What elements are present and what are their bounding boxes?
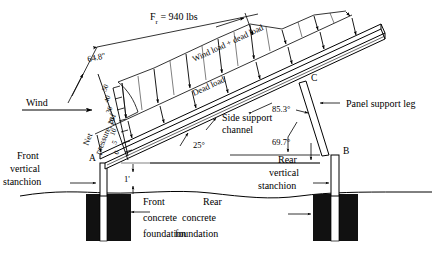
- stanchion-height-label: 1': [124, 174, 130, 184]
- side-support-channel-label-line2: channel: [222, 124, 253, 135]
- front-stanchion-label-line2: vertical: [10, 163, 40, 174]
- pressure-tick-30: 30: [104, 105, 114, 115]
- resultant-force-label: Fr = 940 lbs: [150, 11, 198, 26]
- front-concrete-foundation: [86, 194, 131, 241]
- rear-stanchion-label-line2: vertical: [269, 167, 299, 178]
- panel-support-leg-label: Panel support leg: [346, 98, 415, 109]
- point-label-a: A: [89, 153, 96, 163]
- front-foundation-label-line1: Front: [143, 196, 165, 207]
- leg-panel-angle-label: 85.3°: [272, 104, 290, 114]
- wind-plus-dead-load-arrows: [118, 11, 350, 118]
- side-support-channel-label-line1: Side support: [222, 112, 273, 123]
- wind-label: Wind: [26, 97, 48, 108]
- diagram-canvas: Fr = 940 lbs 64.8" Wind Wind load + dead…: [0, 0, 437, 253]
- leg-horizontal-angle-label: 69.7°: [272, 137, 290, 147]
- rear-foundation-label-line2: concrete: [182, 212, 216, 223]
- panel-upper-chord: [100, 24, 381, 159]
- rear-foundation-label-line1: Rear: [203, 196, 223, 207]
- net-pressure-label-line1: Net: [81, 131, 95, 147]
- rear-concrete-foundation: [313, 194, 358, 241]
- front-stanchion-label-line3: stanchion: [3, 176, 41, 187]
- panel-tilt-angle-label: 25°: [193, 140, 205, 150]
- svg-text:Fr = 940 lbs: Fr = 940 lbs: [150, 11, 198, 26]
- rear-vertical-stanchion: [331, 155, 339, 196]
- front-stanchion-label-line1: Front: [17, 150, 39, 161]
- front-foundation-label-line2: concrete: [143, 212, 177, 223]
- point-label-c: C: [311, 73, 317, 83]
- rear-foundation-label-line3: foundation: [175, 228, 218, 239]
- rear-stanchion-label-line3: stanchion: [258, 180, 296, 191]
- pressure-tick-40: 40: [102, 94, 112, 104]
- dead-load-label: Dead load: [191, 74, 227, 98]
- panel-support-leg: [299, 81, 329, 156]
- pressure-tick-50: 50: [100, 83, 110, 93]
- ground-line: [20, 191, 432, 197]
- point-label-b: B: [343, 146, 349, 156]
- panel-length-label: 64.8": [86, 50, 106, 64]
- pressure-tick-5: 5: [110, 139, 119, 146]
- rear-stanchion-label-line1: Rear: [278, 154, 298, 165]
